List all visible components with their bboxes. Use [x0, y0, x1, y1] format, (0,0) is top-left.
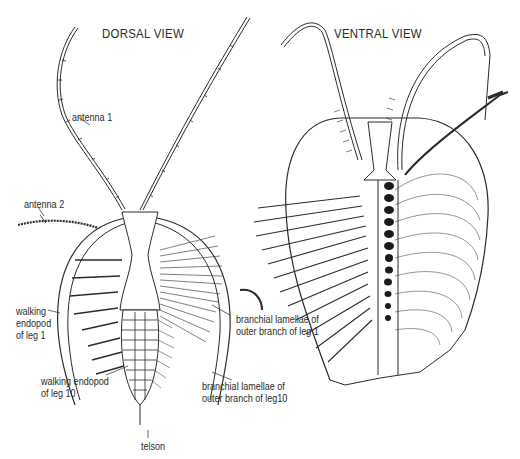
figure-canvas: DORSAL VIEW VENTRAL VIEW antenna 1 anten… — [0, 0, 520, 459]
label-telson: telson — [141, 440, 165, 452]
ventral-view-title: VENTRAL VIEW — [334, 26, 422, 41]
dorsal-specimen — [18, 17, 262, 425]
label-antenna-2: antenna 2 — [24, 198, 64, 210]
label-branchial-lamellae-leg-1: branchial lamellae of outer branch of le… — [236, 313, 319, 337]
label-antenna-1: antenna 1 — [72, 111, 112, 123]
dorsal-view-title: DORSAL VIEW — [102, 26, 184, 41]
label-walking-endopod-leg-1: walking endopod of leg 1 — [16, 305, 51, 341]
label-walking-endopod-leg-10: walking endopod of leg 10 — [41, 375, 109, 399]
label-branchial-lamellae-leg-10: branchial lamellae of outer branch of le… — [202, 380, 287, 404]
